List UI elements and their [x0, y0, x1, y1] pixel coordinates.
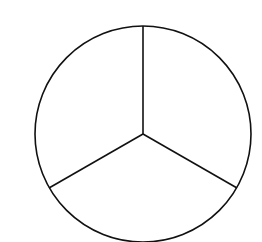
- radius-line-lower-left: [49, 134, 143, 188]
- radius-line-lower-right: [143, 134, 237, 188]
- divided-circle-diagram: [0, 0, 262, 242]
